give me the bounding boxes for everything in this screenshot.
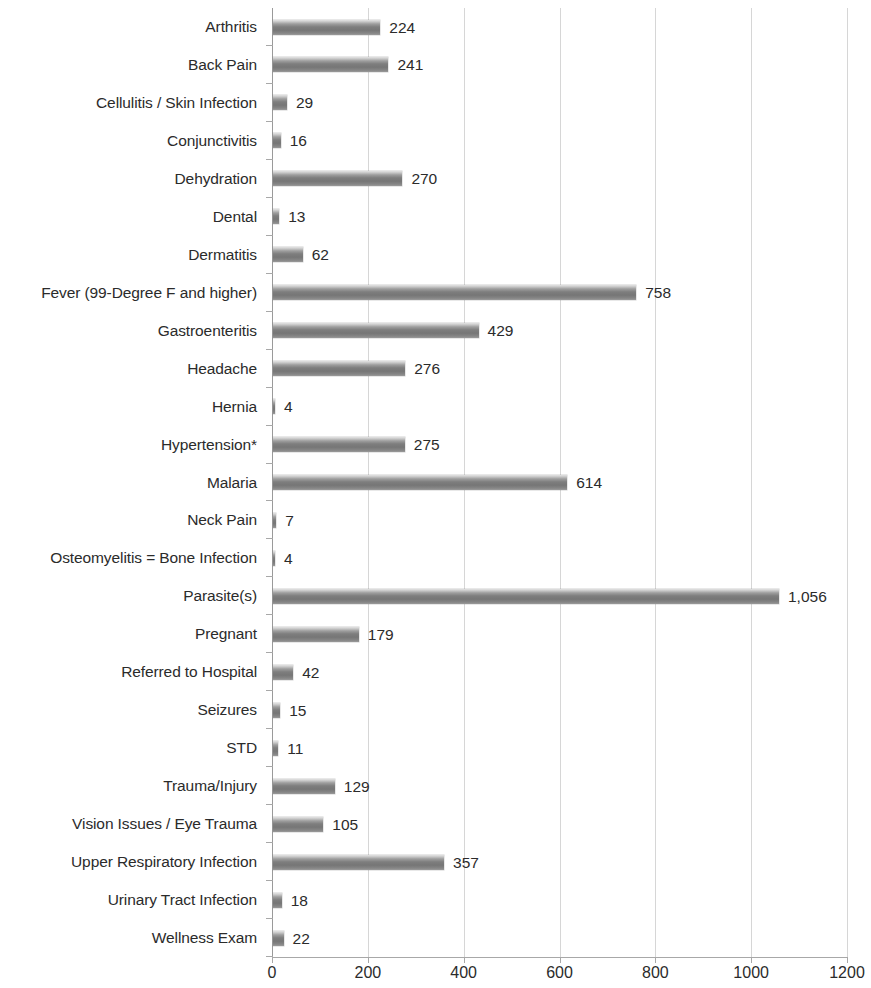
bar-value-label: 42	[302, 665, 319, 680]
bar	[273, 399, 275, 414]
bar-value-label: 129	[344, 779, 370, 794]
x-axis-tick	[272, 957, 273, 963]
bar-row: Osteomyelitis = Bone Infection4	[0, 539, 871, 577]
bar-row: Fever (99-Degree F and higher)758	[0, 274, 871, 312]
x-axis-tick-label: 1000	[733, 964, 769, 982]
category-label: Osteomyelitis = Bone Infection	[50, 539, 257, 577]
bar-fill	[273, 95, 287, 110]
bar	[273, 57, 388, 72]
bar-fill	[273, 247, 303, 262]
category-label: Trauma/Injury	[163, 767, 257, 805]
bar-fill	[273, 513, 276, 528]
category-label: Fever (99-Degree F and higher)	[41, 274, 257, 312]
bar	[273, 741, 278, 756]
bar-row: Dental13	[0, 198, 871, 236]
bar	[273, 817, 323, 832]
bar-row: Referred to Hospital42	[0, 653, 871, 691]
bar-fill	[273, 627, 359, 642]
bar-value-label: 15	[289, 703, 306, 718]
bar	[273, 95, 287, 110]
bar-row: Pregnant179	[0, 615, 871, 653]
bar	[273, 437, 405, 452]
x-axis-tick-label: 400	[450, 964, 477, 982]
category-label: Urinary Tract Infection	[108, 881, 257, 919]
bar-value-label: 224	[389, 20, 415, 35]
category-label: Referred to Hospital	[121, 653, 257, 691]
bar	[273, 551, 275, 566]
x-axis-tick	[560, 957, 561, 963]
category-label: Hernia	[212, 388, 257, 426]
bar-fill	[273, 171, 402, 186]
bar-fill	[273, 893, 282, 908]
bar	[273, 20, 380, 35]
bar-value-label: 276	[414, 361, 440, 376]
bar-value-label: 105	[332, 817, 358, 832]
bar	[273, 589, 779, 604]
bar-row: Urinary Tract Infection18	[0, 881, 871, 919]
x-axis-tick	[751, 957, 752, 963]
bar-fill	[273, 741, 278, 756]
bar-row: Hernia4	[0, 388, 871, 426]
category-label: Arthritis	[205, 8, 257, 46]
x-axis-tick-label: 0	[268, 964, 277, 982]
bar-value-label: 1,056	[788, 589, 827, 604]
bar-value-label: 357	[453, 855, 479, 870]
bar	[273, 323, 479, 338]
bar-fill	[273, 323, 479, 338]
bar-row: Trauma/Injury129	[0, 767, 871, 805]
bar-value-label: 758	[645, 285, 671, 300]
bar	[273, 513, 276, 528]
bar-row: Neck Pain7	[0, 501, 871, 539]
bar-fill	[273, 817, 323, 832]
bar-fill	[273, 133, 281, 148]
category-label: Dental	[213, 198, 257, 236]
bar-row: Seizures15	[0, 691, 871, 729]
bar-value-label: 29	[296, 95, 313, 110]
bar-value-label: 429	[488, 323, 514, 338]
bar-fill	[273, 665, 293, 680]
category-label: Dermatitis	[188, 236, 257, 274]
bar-row: Cellulitis / Skin Infection29	[0, 84, 871, 122]
bar-fill	[273, 589, 779, 604]
category-label: Neck Pain	[187, 501, 257, 539]
bar-fill	[273, 779, 335, 794]
bar	[273, 247, 303, 262]
bar-fill	[273, 437, 405, 452]
bar-fill	[273, 361, 405, 376]
bar-value-label: 275	[414, 437, 440, 452]
bar-row: Back Pain241	[0, 46, 871, 84]
bar-row: Arthritis224	[0, 8, 871, 46]
bar-value-label: 241	[397, 57, 423, 72]
bar	[273, 855, 444, 870]
category-label: Vision Issues / Eye Trauma	[72, 805, 257, 843]
bar	[273, 665, 293, 680]
bar-fill	[273, 551, 275, 566]
category-label: Pregnant	[195, 615, 257, 653]
category-label: Hypertension*	[161, 426, 257, 464]
bar	[273, 285, 636, 300]
bar-value-label: 18	[291, 893, 308, 908]
bar-row: Parasite(s)1,056	[0, 577, 871, 615]
bar-value-label: 11	[287, 741, 303, 756]
bar-chart: Arthritis224Back Pain241Cellulitis / Ski…	[0, 0, 871, 988]
bar	[273, 133, 281, 148]
bar-row: Conjunctivitis16	[0, 122, 871, 160]
bar-row: Dermatitis62	[0, 236, 871, 274]
x-axis-tick	[655, 957, 656, 963]
category-label: Parasite(s)	[183, 577, 257, 615]
bar	[273, 209, 279, 224]
bar-value-label: 16	[290, 133, 307, 148]
category-label: Gastroenteritis	[158, 312, 257, 350]
category-label: Seizures	[197, 691, 257, 729]
bar	[273, 703, 280, 718]
category-label: Cellulitis / Skin Infection	[96, 84, 257, 122]
bar	[273, 893, 282, 908]
bar-fill	[273, 855, 444, 870]
bar-row: Dehydration270	[0, 160, 871, 198]
bar-row: Malaria614	[0, 464, 871, 502]
x-axis-tick	[847, 957, 848, 963]
bar-value-label: 179	[368, 627, 394, 642]
bar-row: Wellness Exam22	[0, 919, 871, 957]
bar-value-label: 4	[284, 551, 293, 566]
category-label: Wellness Exam	[152, 919, 257, 957]
